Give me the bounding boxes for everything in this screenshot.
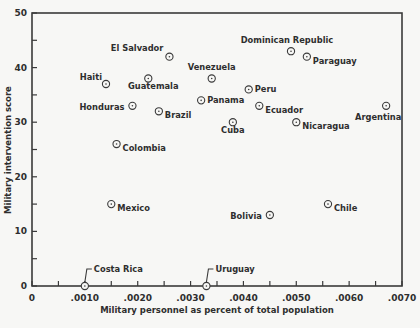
marker-dot [258,105,260,107]
point-label: Dominican Republic [241,35,334,45]
point-label: Bolivia [230,211,262,221]
marker-dot [84,285,86,287]
marker-dot [211,78,213,80]
data-point: Haiti [80,72,110,88]
y-tick-label: 30 [14,117,27,127]
point-label: Chile [334,203,358,213]
marker-dot [147,78,149,80]
x-tick-label: .0010 [71,293,99,303]
marker-dot [290,50,292,52]
data-point: El Salvador [111,43,173,61]
data-points: El SalvadorHaitiGuatemalaHondurasBrazilC… [79,35,401,289]
point-label: Brazil [165,110,192,120]
point-label: Venezuela [188,62,236,72]
y-tick-label: 0 [21,281,27,291]
point-label: Peru [255,84,277,94]
x-tick-label: .0030 [176,293,204,303]
x-tick-label: .0060 [335,293,363,303]
data-point: Dominican Republic [241,35,334,55]
point-label: Haiti [80,72,102,82]
marker-dot [206,285,208,287]
point-label: Nicaragua [302,121,349,131]
marker-dot [110,203,112,205]
marker-dot [116,143,118,145]
marker-dot [169,56,171,58]
point-label: Panama [207,95,244,105]
y-axis-title: Military intervention score [3,86,13,214]
data-point: Colombia [113,140,166,153]
data-point: Ecuador [256,102,304,115]
x-tick-label: .0070 [388,293,416,303]
x-axis-title: Military personnel as percent of total p… [100,305,334,315]
callout-line [85,269,92,282]
x-tick-label: 0 [29,293,35,303]
plot-frame [32,13,402,286]
point-label: Uruguay [215,264,255,274]
y-axis: 01020304050 [14,8,37,291]
marker-dot [232,121,234,123]
data-point: Nicaragua [293,119,350,132]
marker-dot [105,83,107,85]
y-tick-label: 50 [14,8,27,18]
marker-dot [295,121,297,123]
data-point: Guatemala [128,75,179,91]
data-point: Peru [245,84,276,94]
point-label: Mexico [117,203,150,213]
marker-dot [269,214,271,216]
x-tick-label: .0050 [282,293,310,303]
data-point: Panama [198,95,245,105]
marker-dot [385,105,387,107]
callout-line [206,269,213,282]
data-point: Cuba [221,119,245,136]
marker-dot [327,203,329,205]
point-label: Colombia [123,143,166,153]
point-label: Costa Rica [94,264,143,274]
y-tick-label: 10 [14,226,27,236]
marker-dot [248,89,250,91]
marker-dot [306,56,308,58]
data-point: Brazil [155,108,191,121]
data-point: Venezuela [188,62,236,83]
data-point: Mexico [108,201,151,214]
scatter-chart: 01020304050 0.0010.0020.0030.0040.0050.0… [0,0,420,328]
point-label: Ecuador [265,105,304,115]
point-label: Argentina [355,112,401,122]
point-label: El Salvador [111,43,164,53]
data-point: Chile [324,201,357,214]
point-label: Honduras [79,102,124,112]
point-label: Paraguay [313,56,357,66]
data-point: Honduras [79,102,136,112]
y-tick-label: 20 [14,172,27,182]
data-point: Argentina [355,102,401,122]
x-tick-label: .0020 [123,293,151,303]
marker-dot [158,110,160,112]
x-tick-label: .0040 [229,293,257,303]
marker-dot [200,100,202,102]
marker-dot [132,105,134,107]
data-point: Bolivia [230,211,273,221]
point-label: Guatemala [128,81,179,91]
y-tick-label: 40 [14,63,27,73]
data-point: Paraguay [303,53,357,66]
point-label: Cuba [221,125,245,135]
plot-border [32,13,402,286]
